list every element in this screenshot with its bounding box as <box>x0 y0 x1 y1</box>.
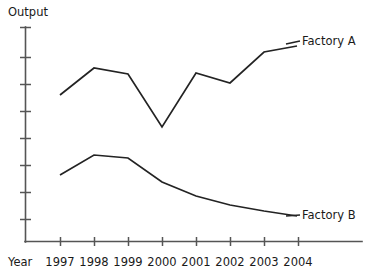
x-tick-label-1997: 1997 <box>45 255 74 269</box>
x-axis <box>25 237 362 246</box>
x-tick-label-2000: 2000 <box>147 255 176 269</box>
series-label-factory-a: Factory A <box>302 34 356 48</box>
series-label-factory-b: Factory B <box>302 208 356 222</box>
x-tick-label-2003: 2003 <box>249 255 278 269</box>
x-tick-label-2004: 2004 <box>283 255 312 269</box>
factory-a-leader-line <box>286 41 300 44</box>
series-line-factory-b <box>60 155 297 216</box>
x-tick-label-2002: 2002 <box>215 255 244 269</box>
x-tick-label-1998: 1998 <box>79 255 108 269</box>
line-chart: Output Factory A Fac <box>0 0 370 280</box>
chart-canvas: Output Factory A Fac <box>0 0 370 280</box>
factory-b-leader-line <box>286 215 300 216</box>
y-axis <box>20 27 31 242</box>
x-tick-label-2001: 2001 <box>181 255 210 269</box>
series-line-factory-a <box>60 46 297 127</box>
x-axis-title: Year <box>7 255 33 269</box>
x-tick-label-1999: 1999 <box>113 255 142 269</box>
y-axis-title: Output <box>8 5 48 19</box>
